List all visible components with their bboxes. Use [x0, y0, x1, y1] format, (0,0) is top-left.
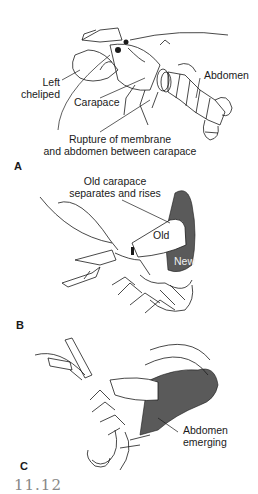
panel-letter-c: C	[20, 460, 28, 472]
label-line: Left	[14, 76, 60, 88]
panel-b: Old carapace separates and rises Old New…	[0, 165, 258, 320]
panel-c: Abdomen emerging C	[0, 320, 258, 486]
label-old: Old	[153, 229, 169, 241]
lobster-illustration-c	[0, 320, 258, 486]
label-rupture: Rupture of membrane and abdomen between …	[20, 133, 220, 157]
label-line: cheliped	[14, 88, 60, 100]
label-abdomen: Abdomen	[204, 69, 249, 81]
panel-a: Left cheliped Carapace Abdomen Rupture o…	[0, 0, 258, 165]
label-line: separates and rises	[60, 187, 170, 199]
label-abdomen-emerging: Abdomen emerging	[183, 424, 228, 448]
label-new: New	[174, 255, 195, 267]
figure-number: 11.12	[14, 476, 62, 494]
label-line: and abdomen between carapace	[20, 145, 220, 157]
label-line: emerging	[183, 436, 228, 448]
label-line: Abdomen	[183, 424, 228, 436]
label-line: Rupture of membrane	[20, 133, 220, 145]
label-left-cheliped: Left cheliped	[14, 76, 60, 100]
label-carapace: Carapace	[74, 96, 120, 108]
label-old-carapace: Old carapace separates and rises	[60, 175, 170, 199]
label-line: Old carapace	[60, 175, 170, 187]
